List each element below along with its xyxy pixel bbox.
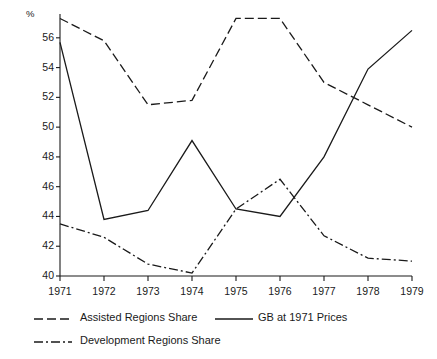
series-line-gb-at-1971-prices	[60, 30, 412, 219]
x-tick-label: 1979	[386, 285, 437, 297]
y-tick-label: 52	[14, 90, 54, 102]
y-tick-label: 44	[14, 209, 54, 221]
y-tick-label: 48	[14, 150, 54, 162]
x-axis-ticks	[60, 276, 412, 281]
y-tick-label: 56	[14, 31, 54, 43]
series-line-development-regions-share	[60, 179, 412, 273]
y-axis-ticks	[56, 38, 60, 276]
legend-label-gb-at-1971-prices: GB at 1971 Prices	[258, 311, 347, 323]
y-tick-label: 46	[14, 180, 54, 192]
legend-label-assisted-regions-share: Assisted Regions Share	[80, 311, 197, 323]
line-chart: % 404244464850525456 1971197219731974197…	[0, 0, 437, 359]
y-tick-label: 54	[14, 61, 54, 73]
data-series-layer	[60, 18, 412, 273]
chart-plot-area	[0, 0, 437, 359]
y-tick-label: 42	[14, 239, 54, 251]
y-axis-unit-label: %	[26, 8, 34, 19]
y-tick-label: 50	[14, 120, 54, 132]
y-tick-label: 40	[14, 269, 54, 281]
series-line-assisted-regions-share	[60, 18, 412, 127]
legend-label-development-regions-share: Development Regions Share	[80, 334, 221, 346]
